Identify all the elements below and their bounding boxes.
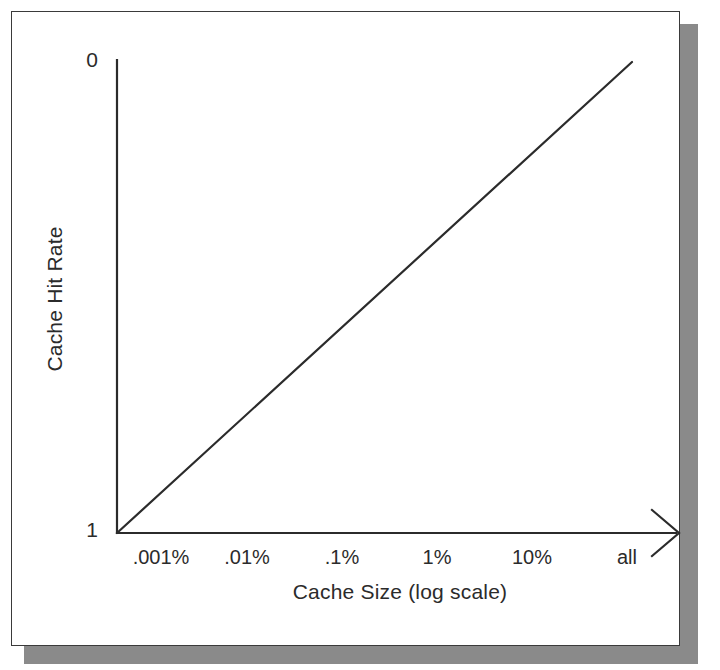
x-tick-label-0: .001% (111, 546, 211, 569)
x-tick-label-3: 1% (387, 546, 487, 569)
y-tick-label-1: 0 (64, 48, 98, 72)
x-axis-title: Cache Size (log scale) (120, 580, 680, 604)
x-tick-label-1: .01% (197, 546, 297, 569)
x-tick-label-4: 10% (482, 546, 582, 569)
y-axis-title: Cache Hit Rate (43, 194, 67, 404)
figure-root: 0 1 .001% .01% .1% 1% 10% all Cache Hit … (0, 0, 720, 670)
y-tick-label-0: 1 (64, 518, 98, 542)
x-tick-label-5: all (577, 546, 677, 569)
x-tick-label-2: .1% (292, 546, 392, 569)
